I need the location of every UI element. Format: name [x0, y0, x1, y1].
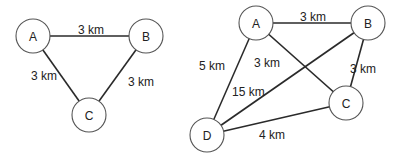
edge-distance-label: 3 km — [78, 23, 104, 37]
edge-distance-label: 3 km — [128, 75, 154, 89]
graph-diagram: 3 km3 km3 km3 km5 km3 km15 km3 km4 km AB… — [0, 0, 402, 160]
edge-distance-label: 3 km — [31, 69, 57, 83]
nodes-layer: ABCABCD — [16, 6, 385, 152]
node-label: A — [29, 30, 37, 44]
edge-distance-label: 5 km — [199, 59, 225, 73]
node-label: C — [342, 97, 351, 111]
edge-distance-label: 3 km — [350, 62, 376, 76]
edge-distance-label: 4 km — [259, 128, 285, 142]
node-label: D — [203, 129, 212, 143]
node-label: B — [364, 17, 372, 31]
edge-distance-label: 3 km — [300, 10, 326, 24]
node-label: B — [142, 30, 150, 44]
node-label: C — [85, 109, 94, 123]
edge-distance-label: 3 km — [254, 56, 280, 70]
edge-distance-label: 15 km — [232, 85, 265, 99]
node-label: A — [252, 17, 260, 31]
